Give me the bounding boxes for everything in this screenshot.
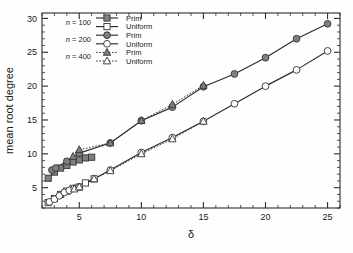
x-tick-label: 25 <box>323 212 333 222</box>
data-series-group <box>45 20 331 205</box>
y-tick-label: 25 <box>27 47 37 57</box>
x-axis-title: δ <box>188 228 194 240</box>
data-point <box>293 35 300 42</box>
data-point <box>262 54 269 61</box>
y-tick-label: 5 <box>32 183 37 193</box>
chart-svg: 51015202551015202530δmean root degreePri… <box>0 0 353 253</box>
legend-marker <box>104 15 110 21</box>
legend-marker <box>104 32 111 39</box>
data-point <box>52 165 59 172</box>
data-point <box>231 71 238 78</box>
data-point <box>293 66 300 73</box>
data-point <box>324 20 331 27</box>
data-point <box>89 154 95 160</box>
legend-group-label: n = 400 <box>66 52 91 61</box>
y-tick-label: 20 <box>27 81 37 91</box>
data-point <box>76 146 83 153</box>
data-point <box>76 157 82 163</box>
data-point <box>324 48 331 55</box>
y-tick-label: 15 <box>27 115 37 125</box>
data-point <box>231 100 238 107</box>
data-point <box>82 180 88 186</box>
data-point <box>45 175 51 181</box>
y-tick-label: 10 <box>27 149 37 159</box>
legend-marker <box>103 48 110 55</box>
series-2 <box>52 24 328 170</box>
x-tick-label: 5 <box>77 212 82 222</box>
figure-container: 51015202551015202530δmean root degreePri… <box>0 0 353 253</box>
y-axis-title: mean root degree <box>3 67 15 154</box>
legend-group-label: n = 100 <box>66 18 91 27</box>
legend-group-label: n = 200 <box>66 35 91 44</box>
data-point <box>262 83 269 90</box>
series-line <box>52 24 328 170</box>
legend-marker <box>103 57 110 64</box>
legend-marker <box>104 40 111 47</box>
x-tick-label: 20 <box>260 212 270 222</box>
legend-marker <box>104 24 110 30</box>
x-tick-label: 15 <box>198 212 208 222</box>
data-point <box>82 155 88 161</box>
x-tick-label: 10 <box>136 212 146 222</box>
legend-label: Uniform <box>126 57 152 66</box>
y-tick-label: 30 <box>27 14 37 24</box>
legend: PrimUniformPrimUniformPrimUniformn = 100… <box>66 14 153 66</box>
data-point <box>169 100 176 107</box>
